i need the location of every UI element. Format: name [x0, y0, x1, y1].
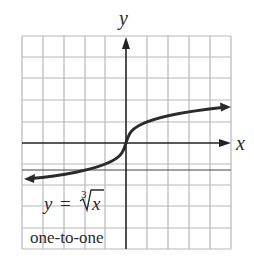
x-axis-label: x	[235, 132, 245, 154]
y-axis-label: y	[117, 7, 128, 30]
axes	[22, 46, 222, 249]
y-axis-arrow-icon	[122, 37, 130, 49]
function-label-radicand: x	[91, 193, 101, 214]
curve-left-arrow-icon	[24, 174, 35, 183]
function-label-lhs: y	[42, 193, 53, 214]
curve-right-arrow-icon	[220, 103, 231, 112]
function-label-equals: =	[60, 193, 71, 214]
x-axis-arrow-icon	[219, 139, 231, 147]
root-index: 3	[81, 188, 87, 200]
cube-root-graph: y x y = 3 x one-to-one	[0, 0, 254, 262]
classification-label: one-to-one	[30, 228, 104, 247]
